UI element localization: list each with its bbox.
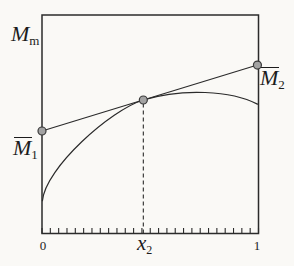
label-partial-right: M2 <box>260 67 285 96</box>
xtick-label-zero: 0 <box>37 239 49 252</box>
Mm-curve <box>42 92 257 200</box>
label-y-quantity: Mm <box>11 23 39 52</box>
label-partial-left: M1 <box>13 137 38 166</box>
xtick-label-x2: x2 <box>137 233 152 261</box>
dot-tangent-point <box>139 96 147 104</box>
xtick-label-x2-sub: 2 <box>146 243 152 257</box>
dot-M1-intercept <box>38 127 46 135</box>
label-partial-right-base: M <box>260 65 278 90</box>
partial-molar-quantity-figure: Mm M1 M2 0 x2 1 <box>0 0 294 266</box>
plot-frame <box>42 15 259 234</box>
xtick-label-one: 1 <box>251 239 263 252</box>
label-partial-left-base: M <box>13 135 31 160</box>
plot-svg <box>0 0 294 266</box>
label-y-quantity-base: M <box>11 21 29 46</box>
label-partial-right-sub: 2 <box>278 77 285 92</box>
label-y-quantity-sub: m <box>29 33 39 48</box>
xtick-label-x2-base: x <box>137 231 146 255</box>
tangent-line <box>42 65 257 131</box>
label-partial-left-sub: 1 <box>31 147 38 162</box>
